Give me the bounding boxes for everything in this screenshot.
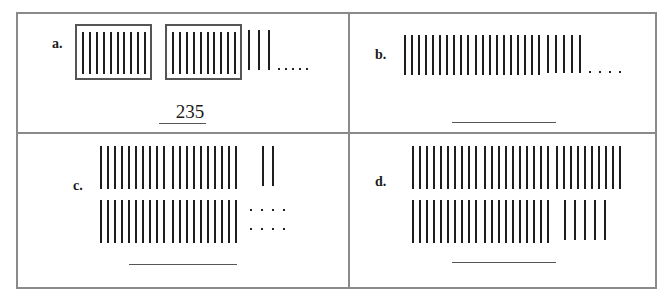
stick (186, 200, 188, 243)
stick (446, 35, 448, 75)
stick (186, 32, 188, 74)
stick (220, 32, 222, 74)
stick (540, 146, 542, 189)
dot (599, 71, 601, 73)
problem-b-cell: b. (350, 14, 657, 132)
dot (261, 209, 263, 211)
stick (433, 200, 435, 243)
stick (563, 146, 565, 189)
stick (156, 200, 158, 243)
stick (489, 35, 491, 75)
problem-c-label: c. (73, 178, 83, 194)
stick (193, 200, 195, 243)
stick (100, 200, 102, 243)
dot (609, 71, 611, 73)
stick (538, 35, 540, 75)
stick (461, 146, 463, 189)
stick (221, 200, 223, 243)
stick (110, 32, 112, 74)
stick (498, 146, 500, 189)
dot (306, 68, 308, 70)
stick (531, 35, 533, 75)
stick (503, 35, 505, 75)
stick (584, 200, 586, 240)
stick (121, 146, 123, 189)
stick (484, 146, 486, 189)
answer-line[interactable] (452, 262, 556, 263)
stick (107, 146, 109, 189)
stick (179, 32, 181, 74)
stick (491, 146, 493, 189)
stick (619, 146, 621, 189)
stick (234, 32, 236, 74)
stick (475, 200, 477, 243)
stick (89, 32, 91, 74)
stick (432, 35, 434, 75)
stick (179, 200, 181, 243)
stick (453, 35, 455, 75)
stick (411, 35, 413, 75)
stick (547, 200, 549, 243)
stick (207, 200, 209, 243)
stick (418, 35, 420, 75)
dot (283, 209, 285, 211)
dot (283, 228, 285, 230)
stick (179, 146, 181, 189)
stick (496, 35, 498, 75)
stick (130, 32, 132, 74)
stick (137, 32, 139, 74)
stick (163, 200, 165, 243)
stick (533, 200, 535, 243)
stick (498, 200, 500, 243)
stick (142, 200, 144, 243)
stick (128, 146, 130, 189)
stick (163, 146, 165, 189)
stick (117, 32, 119, 74)
stick (440, 200, 442, 243)
answer-line[interactable] (129, 264, 237, 265)
stick (584, 146, 586, 189)
stick (248, 30, 250, 70)
stick (475, 146, 477, 189)
stick (214, 146, 216, 189)
stick (563, 35, 565, 73)
stick (570, 146, 572, 189)
stick (571, 35, 573, 73)
stick (100, 146, 102, 189)
stick (193, 146, 195, 189)
stick (491, 200, 493, 243)
dot (272, 228, 274, 230)
problem-a-label: a. (52, 36, 63, 52)
stick (447, 146, 449, 189)
dot (619, 71, 621, 73)
problem-c-cell: c. (18, 134, 348, 289)
stick (468, 200, 470, 243)
stick (564, 200, 566, 240)
stick (556, 146, 558, 189)
stick (468, 146, 470, 189)
stick (482, 35, 484, 75)
dot (278, 68, 280, 70)
problem-a-answer: 235 (158, 101, 222, 123)
stick (172, 146, 174, 189)
problem-a-cell: a. 235 (18, 14, 348, 132)
stick (207, 146, 209, 189)
stick (149, 200, 151, 243)
answer-line[interactable] (452, 122, 556, 123)
dot (299, 68, 301, 70)
stick (149, 146, 151, 189)
stick (228, 200, 230, 243)
dot (272, 209, 274, 211)
stick (519, 200, 521, 243)
stick (228, 146, 230, 189)
stick (172, 32, 174, 74)
stick (454, 200, 456, 243)
bundle-of-ten-box (165, 24, 242, 80)
stick (272, 146, 274, 186)
stick (96, 32, 98, 74)
stick (128, 200, 130, 243)
stick (512, 200, 514, 243)
stick (426, 146, 428, 189)
stick (433, 146, 435, 189)
stick (227, 32, 229, 74)
